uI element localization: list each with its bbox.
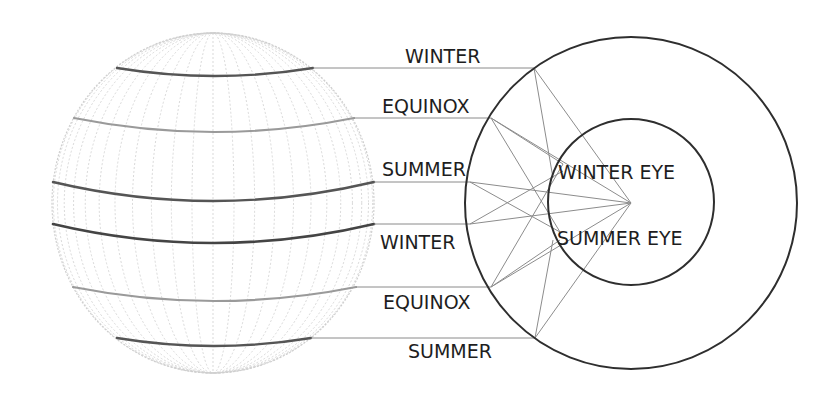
seasonal-eye-diagram: WINTER EQUINOX SUMMER WINTER EQUINOX SUM… bbox=[0, 0, 836, 396]
eye-label-summer: SUMMER EYE bbox=[557, 229, 683, 248]
sight-ray bbox=[491, 118, 563, 164]
band-equinox-top bbox=[74, 118, 354, 132]
season-label-winter-bottom: WINTER bbox=[380, 233, 455, 252]
band-equinox-bottom bbox=[73, 287, 356, 301]
inner-eye-circle bbox=[548, 119, 714, 285]
season-label-winter-top: WINTER bbox=[405, 47, 480, 66]
band-summer-bottom bbox=[117, 338, 311, 346]
season-label-equinox-top: EQUINOX bbox=[382, 97, 469, 116]
season-label-summer-bottom: SUMMER bbox=[408, 342, 492, 361]
sight-ray bbox=[534, 68, 553, 178]
season-label-summer-top: SUMMER bbox=[382, 160, 466, 179]
eye-label-winter: WINTER EYE bbox=[558, 163, 675, 182]
sight-ray bbox=[491, 240, 560, 287]
globe-wireframe bbox=[52, 33, 374, 373]
season-label-equinox-bottom: EQUINOX bbox=[383, 293, 470, 312]
sight-ray bbox=[470, 182, 560, 232]
